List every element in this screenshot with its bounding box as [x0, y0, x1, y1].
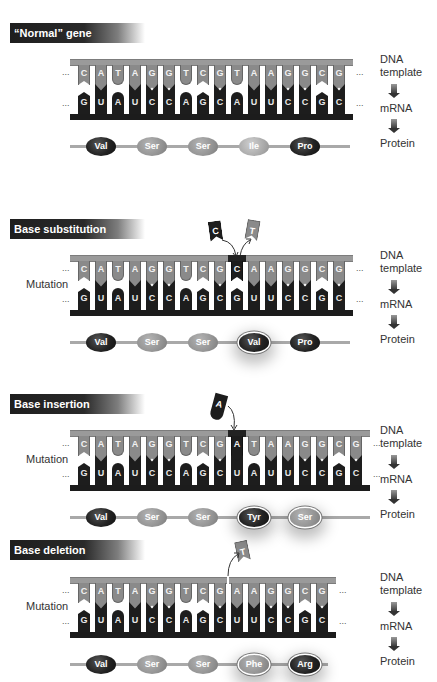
mrna-base: A [112, 288, 124, 310]
mrna-base: A [180, 610, 192, 632]
dna-base: T [112, 65, 124, 85]
ellipsis: ... [62, 585, 70, 595]
down-arrow-icon [391, 315, 397, 325]
dna-base: C [299, 583, 311, 603]
side-label-dna: DNA [380, 53, 403, 66]
down-arrow-icon [391, 602, 397, 612]
dna-base: C [78, 436, 90, 456]
ellipsis: ... [62, 469, 70, 479]
mrna-base: G [299, 610, 311, 632]
dna-base: C [197, 583, 209, 603]
mutation-label: Mutation [26, 453, 68, 465]
mrna-base: C [214, 602, 226, 632]
panel-title-deletion: Base deletion [10, 540, 145, 560]
dna-base: T [180, 261, 192, 281]
amino-acid: Ser [188, 333, 218, 352]
panel-title-insertion: Base insertion [10, 394, 145, 414]
mrna-base: C [163, 455, 175, 485]
side-label-template: template [380, 584, 422, 597]
mrna-base: C [214, 84, 226, 114]
panel-title-substitution: Base substitution [10, 219, 145, 239]
dna-base: T [112, 436, 124, 456]
mrna-base: A [180, 463, 192, 485]
dna-base: C [333, 436, 345, 456]
amino-acid: Ser [137, 137, 167, 156]
mrna-base: C [214, 280, 226, 310]
ellipsis: ... [356, 294, 364, 304]
side-label-mrna: mRNA [380, 102, 412, 115]
mrna-base: A [180, 288, 192, 310]
mrna-backbone [70, 485, 370, 491]
amino-acid: Ser [137, 508, 167, 527]
mrna-base: C [146, 602, 158, 632]
amino-acid: Pro [290, 333, 320, 352]
down-arrow-icon [391, 119, 397, 129]
amino-acid: Val [239, 333, 269, 352]
side-label-protein: Protein [380, 655, 415, 668]
side-label-mrna: mRNA [380, 298, 412, 311]
mrna-base: A [112, 463, 124, 485]
side-label-protein: Protein [380, 333, 415, 346]
dna-base: C [316, 261, 328, 281]
amino-acid: Ser [137, 333, 167, 352]
mrna-base: C [282, 280, 294, 310]
mrna-base: G [316, 288, 328, 310]
amino-acid: Tyr [239, 508, 269, 527]
mrna-base: C [163, 84, 175, 114]
dna-base: C [78, 261, 90, 281]
side-label-dna: DNA [380, 571, 403, 584]
dna-base: T [231, 65, 243, 85]
dna-base: T [112, 261, 124, 281]
amino-acid: Ser [137, 655, 167, 674]
amino-acid: Val [86, 655, 116, 674]
mrna-base: C [299, 280, 311, 310]
mutation-label: Mutation [26, 278, 68, 290]
dna-base: T [180, 583, 192, 603]
mrna-base: C [265, 602, 277, 632]
dna-base: C [197, 261, 209, 281]
dna-base: C [78, 65, 90, 85]
mrna-base: G [333, 463, 345, 485]
amino-acid: Ser [290, 508, 320, 527]
amino-acid: Val [86, 137, 116, 156]
mrna-base: G [78, 288, 90, 310]
mrna-base: A [180, 92, 192, 114]
dna-backbone [70, 577, 227, 584]
dna-base: T [180, 436, 192, 456]
mrna-base: C [282, 602, 294, 632]
mrna-base: C [214, 455, 226, 485]
side-label-template: template [380, 262, 422, 275]
dna-base: C [231, 261, 243, 281]
dna-base: T [112, 583, 124, 603]
mrna-backbone [70, 632, 336, 638]
down-arrow-icon [391, 637, 397, 647]
dna-base: C [197, 65, 209, 85]
mrna-base: A [112, 610, 124, 632]
side-label-protein: Protein [380, 137, 415, 150]
mrna-base: C [333, 84, 345, 114]
panel-title-normal: “Normal” gene [10, 23, 145, 43]
amino-acid: Ser [188, 655, 218, 674]
amino-acid: Ser [188, 508, 218, 527]
mrna-base: G [197, 610, 209, 632]
mrna-base: C [299, 455, 311, 485]
ellipsis: ... [356, 263, 364, 273]
dna-backbone [229, 577, 336, 584]
amino-acid: Val [86, 333, 116, 352]
amino-acid: Val [86, 508, 116, 527]
mrna-backbone [70, 310, 353, 316]
mrna-base: G [78, 610, 90, 632]
mrna-backbone [70, 114, 353, 120]
mrna-base: G [197, 463, 209, 485]
mrna-base: C [299, 84, 311, 114]
mrna-base: A [112, 92, 124, 114]
mrna-base: G [197, 92, 209, 114]
ellipsis: ... [356, 98, 364, 108]
mrna-base: C [316, 455, 328, 485]
mrna-base: G [197, 288, 209, 310]
delete-arrow-icon [220, 550, 250, 580]
side-label-mrna: mRNA [380, 620, 412, 633]
mrna-base: G [316, 92, 328, 114]
mrna-base: C [350, 455, 362, 485]
mrna-base: A [231, 92, 243, 114]
